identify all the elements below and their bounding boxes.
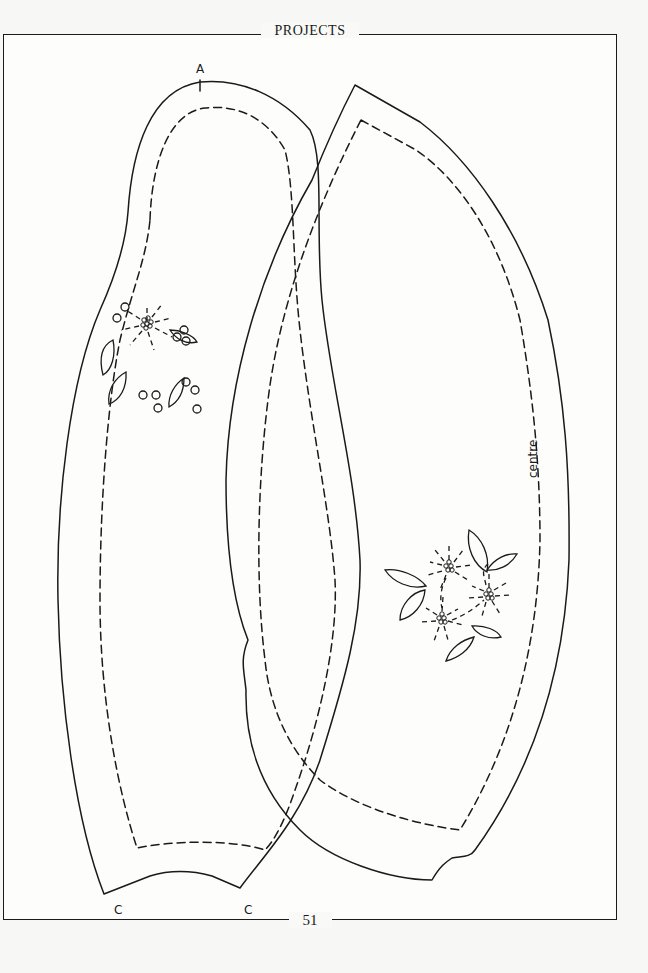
right-piece-cutting-line bbox=[226, 85, 569, 880]
pattern-diagram: A C C centre bbox=[0, 0, 648, 973]
left-piece-cutting-line bbox=[58, 81, 360, 894]
left-piece-stitch-line bbox=[100, 107, 335, 850]
right-piece-stitch-line bbox=[259, 120, 540, 830]
page-number: 51 bbox=[289, 912, 332, 928]
page-footer: 51 bbox=[0, 911, 620, 929]
notch-label-a: A bbox=[196, 62, 205, 76]
right-embroidery-motif bbox=[385, 530, 517, 661]
left-embroidery-motif bbox=[101, 303, 201, 413]
centre-fold-label: centre bbox=[526, 440, 540, 478]
